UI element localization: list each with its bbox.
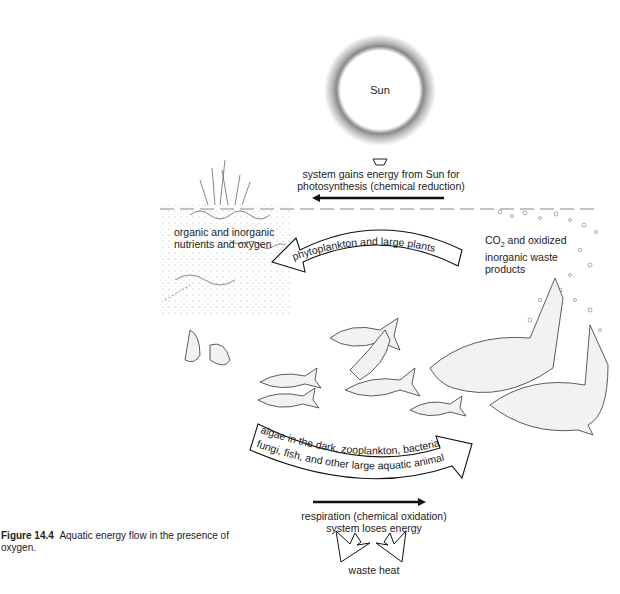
waste-line3: products bbox=[485, 263, 605, 275]
waste-products-label: CO2 and oxidized inorganic waste product… bbox=[485, 234, 605, 275]
figure: phytoplankton and large plants algae in … bbox=[0, 0, 620, 594]
energy-gain-line2: photosynthesis (chemical reduction) bbox=[276, 180, 486, 192]
waste-heat-arrows-icon bbox=[336, 531, 406, 562]
figure-number: Figure 14.4 bbox=[1, 530, 54, 541]
energy-gain-label: system gains energy from Sun for photosy… bbox=[276, 168, 486, 192]
respiration-label: respiration (chemical oxidation) system … bbox=[284, 510, 464, 534]
nutrients-line2: nutrients and oxygen bbox=[174, 238, 294, 250]
respiration-line1: respiration (chemical oxidation) bbox=[284, 510, 464, 522]
energy-gain-line1: system gains energy from Sun for bbox=[276, 168, 486, 180]
waste-heat-label: waste heat bbox=[334, 564, 414, 576]
waste-line2: inorganic waste bbox=[485, 251, 605, 263]
down-arrow-icon bbox=[373, 159, 387, 165]
left-arrow-icon bbox=[312, 194, 444, 202]
oxidized-text: and oxidized bbox=[505, 234, 567, 246]
waste-line1: CO2 and oxidized bbox=[485, 234, 605, 251]
sun-label: Sun bbox=[360, 84, 400, 96]
nutrients-label: organic and inorganic nutrients and oxyg… bbox=[174, 226, 294, 250]
figure-caption: Figure 14.4 Aquatic energy flow in the p… bbox=[1, 530, 263, 554]
nutrients-line1: organic and inorganic bbox=[174, 226, 294, 238]
right-arrow-icon bbox=[313, 498, 426, 506]
respiration-line2: system loses energy bbox=[284, 522, 464, 534]
co2-text: CO bbox=[485, 234, 501, 246]
